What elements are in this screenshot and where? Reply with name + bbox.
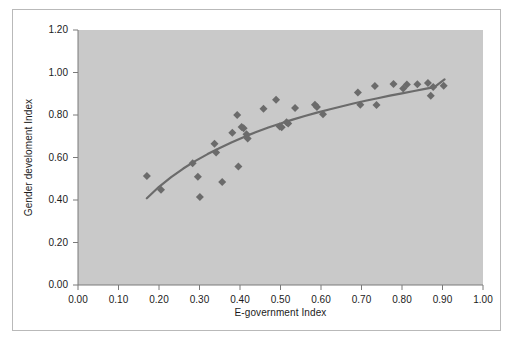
x-axis-tick-label: 0.60: [301, 294, 341, 305]
y-axis-tick-label: 0.60: [34, 152, 68, 163]
x-axis-title: E-government Index: [78, 307, 483, 318]
x-axis-tick-label: 0.50: [261, 294, 301, 305]
x-axis-tick-label: 0.20: [139, 294, 179, 305]
y-axis-tick-label: 0.80: [34, 109, 68, 120]
y-axis-ticks: [73, 30, 78, 285]
y-axis-tick-label: 1.00: [34, 67, 68, 78]
x-axis-tick-label: 0.90: [423, 294, 463, 305]
x-axis-tick-label: 1.00: [463, 294, 503, 305]
y-axis-tick-label: 0.20: [34, 237, 68, 248]
x-axis-tick-label: 0.80: [382, 294, 422, 305]
x-axis-tick-label: 0.70: [342, 294, 382, 305]
chart-figure: Gender develoment Index E-government Ind…: [0, 0, 516, 345]
x-axis-tick-label: 0.10: [99, 294, 139, 305]
x-axis-tick-label: 0.00: [58, 294, 98, 305]
y-axis-tick-label: 0.00: [34, 279, 68, 290]
plot-area: [73, 30, 483, 290]
y-axis-tick-label: 1.20: [34, 24, 68, 35]
x-axis-tick-label: 0.40: [220, 294, 260, 305]
x-axis-tick-label: 0.30: [180, 294, 220, 305]
plot-background: [78, 30, 483, 285]
y-axis-title: Gender develoment Index: [23, 68, 34, 248]
x-axis-ticks: [78, 285, 483, 290]
y-axis-tick-label: 0.40: [34, 194, 68, 205]
